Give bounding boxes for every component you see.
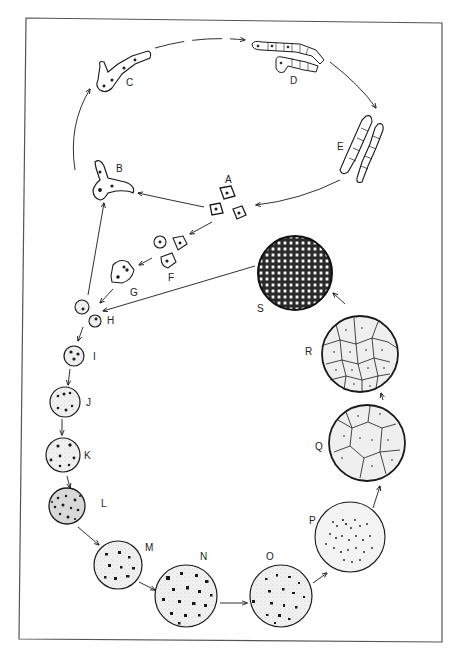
stage-K [46,438,80,472]
stage-D [252,41,324,72]
label-O: O [266,551,274,562]
label-C: C [126,77,133,88]
stage-A [210,186,246,219]
label-P: P [309,515,316,526]
stage-I [64,346,84,366]
label-Q: Q [315,441,323,452]
stage-O [250,565,312,627]
stage-P [315,502,385,572]
stage-F [154,236,187,268]
stage-N [155,565,217,627]
label-M: M [145,542,153,553]
stage-G [111,261,134,283]
stage-L [49,488,85,524]
stage-E [340,116,383,183]
label-E: E [337,141,344,152]
label-B: B [116,163,123,174]
label-K: K [84,450,91,461]
stage-J [50,387,80,417]
label-L: L [101,498,107,509]
life-cycle-diagram: A B C D [0,0,454,658]
label-G: G [130,287,138,298]
label-A: A [225,174,232,185]
stage-Q [329,405,405,481]
stage-S [258,236,332,310]
stage-B [93,161,134,200]
stage-C [97,51,151,92]
label-R: R [305,346,312,357]
label-H: H [107,315,114,326]
label-N: N [200,551,207,562]
label-S: S [257,303,264,314]
label-D: D [290,75,297,86]
stage-R [322,316,398,392]
stage-M [94,541,142,589]
label-F: F [168,272,174,283]
label-J: J [86,397,91,408]
label-I: I [93,351,96,362]
stage-H [75,300,101,327]
